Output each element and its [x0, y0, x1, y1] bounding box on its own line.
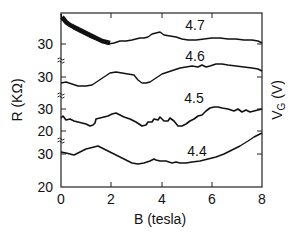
curves [61, 14, 262, 164]
svg-text:30: 30 [37, 36, 53, 52]
curve-4.4 [61, 133, 262, 164]
svg-text:20: 20 [37, 179, 53, 195]
curve-4.7-noise [62, 17, 110, 43]
y-tick-labels: 30 30 30 20 30 20 [37, 36, 53, 195]
y-ticks [61, 44, 262, 154]
svg-text:30: 30 [37, 146, 53, 162]
curve-label-4.7: 4.7 [185, 17, 205, 33]
curve-4.5 [61, 107, 262, 126]
y-axis-title-right: VG (V) [269, 80, 287, 120]
curve-4.6 [61, 64, 262, 86]
svg-text:20: 20 [37, 123, 53, 139]
y-axis-title-left: R (KΩ) [9, 78, 25, 121]
svg-text:30: 30 [37, 69, 53, 85]
x-tick-labels: 0 2 4 6 8 [57, 191, 266, 207]
svg-text:2: 2 [107, 191, 115, 207]
x-axis-title: B (tesla) [134, 211, 186, 227]
svg-text:6: 6 [208, 191, 216, 207]
chart: 30 30 30 20 30 20 0 2 4 6 8 B (tesla) R … [0, 0, 295, 235]
curve-4.7 [61, 14, 262, 44]
curve-label-4.4: 4.4 [187, 143, 207, 159]
svg-text:0: 0 [57, 191, 65, 207]
svg-text:30: 30 [37, 101, 53, 117]
curve-labels: 4.7 4.6 4.5 4.4 [184, 17, 207, 159]
curve-label-4.6: 4.6 [185, 48, 205, 64]
svg-text:4: 4 [158, 191, 166, 207]
curve-label-4.5: 4.5 [184, 90, 204, 106]
svg-text:8: 8 [258, 191, 266, 207]
